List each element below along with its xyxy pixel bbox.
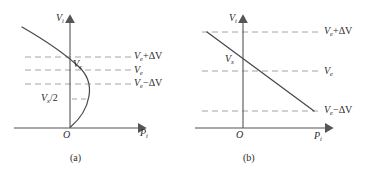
y-axis-label-a: Vi	[56, 13, 64, 23]
curve-parabola	[22, 27, 90, 127]
panel-a: Vi Pi O Vx Vx/2 Ve+ΔV Ve Ve−ΔV (a)	[0, 0, 185, 175]
gridline-label-middle-b: Ve	[324, 66, 333, 76]
x-axis-label-b: Pi	[314, 131, 322, 141]
curve-linear	[207, 32, 314, 111]
caption-a: (a)	[70, 152, 81, 163]
gridline-label-middle-a: Ve	[134, 65, 143, 75]
point-label-vx-a: Vx	[73, 59, 82, 69]
point-label-vx-b: Vx	[225, 54, 234, 64]
gridline-label-upper-b: Ve+ΔV	[324, 26, 352, 36]
point-label-half-vx-a: Vx/2	[41, 93, 58, 103]
figure-root: Vi Pi O Vx Vx/2 Ve+ΔV Ve Ve−ΔV (a)	[0, 0, 371, 175]
origin-label-b: O	[236, 130, 243, 140]
y-axis-label-b: Vi	[229, 13, 237, 23]
gridline-label-lower-b: Ve−ΔV	[324, 105, 352, 115]
gridline-label-lower-a: Ve−ΔV	[134, 78, 162, 88]
gridline-label-upper-a: Ve+ΔV	[134, 51, 162, 61]
panel-b: Vi Pi O Vx Ve+ΔV Ve Ve−ΔV (b)	[185, 0, 371, 175]
origin-label-a: O	[63, 130, 70, 140]
x-axis-label-a: Pi	[140, 128, 148, 138]
caption-b: (b)	[243, 152, 255, 163]
